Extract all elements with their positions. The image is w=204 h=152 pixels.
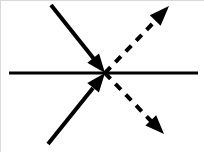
arrow-shaft-incoming-upper-left: [51, 5, 94, 59]
arrow-shaft-outgoing-upper-right: [105, 20, 156, 73]
arrow-shaft-outgoing-lower-right: [105, 73, 151, 121]
diagram-canvas: [0, 0, 204, 152]
arrow-incoming-upper-left: [51, 5, 105, 73]
arrow-outgoing-lower-right: [105, 73, 164, 134]
arrow-incoming-lower-left: [48, 73, 105, 144]
arrow-shaft-incoming-lower-left: [48, 88, 93, 144]
arrow-head-outgoing-upper-right: [150, 6, 169, 26]
vector-intersection-svg: [1, 1, 204, 152]
arrow-outgoing-upper-right: [105, 6, 169, 73]
